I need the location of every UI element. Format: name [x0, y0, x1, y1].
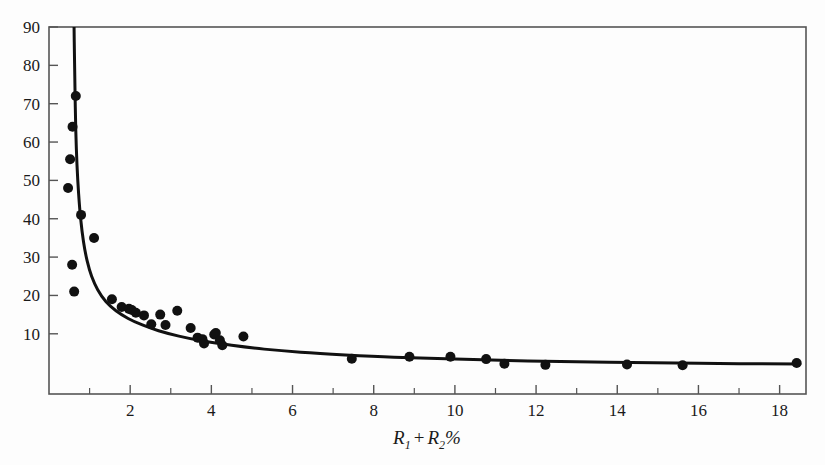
data-point — [481, 354, 491, 364]
data-point — [68, 122, 78, 132]
y-tick-label: 40 — [23, 210, 40, 229]
data-point — [139, 310, 149, 320]
y-tick-label: 60 — [23, 133, 40, 152]
x-tick-label: 6 — [288, 401, 297, 420]
x-tick-label: 8 — [369, 401, 378, 420]
y-tick-label: 50 — [23, 171, 40, 190]
data-point — [199, 338, 209, 348]
data-point — [792, 358, 802, 368]
data-point — [65, 154, 75, 164]
y-axis-major-ticks — [49, 27, 58, 334]
data-point — [217, 340, 227, 350]
x-axis-tick-labels: 24681012141618 — [126, 401, 788, 420]
y-tick-label: 10 — [23, 325, 40, 344]
data-point — [172, 306, 182, 316]
x-axis-major-ticks — [130, 385, 779, 394]
x-axis-title: R1+R2% — [392, 427, 461, 452]
data-point — [155, 310, 165, 320]
data-point — [67, 260, 77, 270]
y-tick-label: 20 — [23, 286, 40, 305]
figure-container: 24681012141618 102030405060708090 R1+R2% — [0, 0, 825, 465]
data-point — [238, 331, 248, 341]
x-tick-label: 10 — [446, 401, 463, 420]
x-tick-label: 14 — [609, 401, 627, 420]
y-tick-label: 90 — [23, 18, 40, 37]
data-point — [89, 233, 99, 243]
y-tick-label: 70 — [23, 95, 40, 114]
data-point — [69, 287, 79, 297]
data-point — [622, 359, 632, 369]
data-point — [76, 210, 86, 220]
data-point — [71, 91, 81, 101]
y-tick-label: 80 — [23, 56, 40, 75]
data-point — [63, 183, 73, 193]
data-point — [107, 294, 117, 304]
data-point — [404, 352, 414, 362]
data-point — [540, 360, 550, 370]
data-point — [186, 323, 196, 333]
x-tick-label: 18 — [771, 401, 788, 420]
data-point — [160, 320, 170, 330]
x-tick-label: 12 — [528, 401, 545, 420]
y-axis-tick-labels: 102030405060708090 — [23, 18, 40, 344]
data-point — [678, 360, 688, 370]
x-tick-label: 16 — [690, 401, 707, 420]
data-point — [347, 354, 357, 364]
x-axis-minor-ticks — [90, 388, 739, 394]
data-point — [499, 359, 509, 369]
data-point — [146, 319, 156, 329]
x-tick-label: 2 — [126, 401, 135, 420]
fitted-curve-path — [74, 19, 800, 364]
plot-frame-rect — [49, 27, 806, 394]
data-point — [445, 352, 455, 362]
x-tick-label: 4 — [207, 401, 216, 420]
y-tick-label: 30 — [23, 248, 40, 267]
scatter-plot: 24681012141618 102030405060708090 R1+R2% — [0, 0, 825, 465]
data-point-group — [63, 91, 802, 370]
plot-frame — [49, 27, 806, 394]
